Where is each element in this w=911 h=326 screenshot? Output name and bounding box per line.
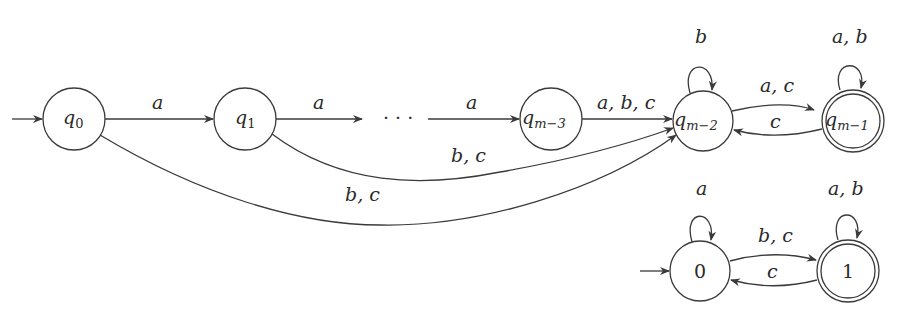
automaton-top: a a · · · a a, b, c b, c b, c b a, c c a…	[12, 25, 884, 225]
state-0: 0	[670, 241, 730, 301]
self-loop-qm1	[838, 66, 862, 90]
edge-label-self-loop-qm2: b	[695, 25, 707, 47]
self-loop-1	[836, 215, 858, 240]
edge-label-q0-q1: a	[152, 91, 163, 113]
edge-q0-qm2	[100, 135, 676, 225]
self-loop-qm2	[688, 67, 712, 93]
ellipsis: · · ·	[383, 106, 413, 128]
state-1-accepting: 1	[817, 240, 879, 302]
edge-label-ellipsis-qm3: a	[466, 91, 477, 113]
state-q1: q1	[214, 88, 276, 150]
automata-diagram: a a · · · a a, b, c b, c b, c b a, c c a…	[0, 0, 911, 326]
edge-label-self-loop-0: a	[696, 177, 707, 199]
edge-label-q0-qm2: b, c	[345, 183, 380, 205]
edge-label-q1-ellipsis: a	[313, 91, 324, 113]
state-qm3: qm−3	[520, 88, 582, 150]
edge-label-self-loop-qm1: a, b	[832, 25, 868, 47]
edge-label-qm3-qm2: a, b, c	[597, 91, 656, 113]
state-qm2: qm−2	[673, 91, 733, 151]
state-q0: q0	[43, 88, 105, 150]
edge-label-1-0: c	[767, 260, 778, 282]
automaton-bottom: a b, c c a, b 0 1	[640, 177, 879, 302]
state-qm1-accepting: qm−1	[822, 90, 884, 152]
edge-label-qm2-qm1: a, c	[760, 74, 794, 96]
edge-label-qm1-qm2: c	[770, 110, 781, 132]
edge-label-0-1: b, c	[758, 224, 793, 246]
state-label-0: 0	[694, 260, 706, 282]
edge-label-q1-qm2: b, c	[451, 144, 486, 166]
self-loop-0	[690, 216, 711, 242]
edge-label-self-loop-1: a, b	[828, 177, 864, 199]
state-label-1: 1	[842, 260, 854, 282]
